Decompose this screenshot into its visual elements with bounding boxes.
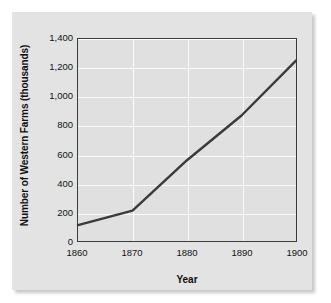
x-axis-title: Year (77, 274, 297, 285)
line-chart: Number of Western Farms (thousands) 0200… (0, 0, 331, 303)
x-tick-label: 1860 (52, 248, 102, 258)
y-tick-label: 400 (25, 179, 73, 189)
plot-area (77, 38, 297, 242)
series-line (78, 39, 296, 241)
x-tick-label: 1870 (107, 248, 157, 258)
series-polyline (78, 61, 296, 225)
x-tick-label: 1900 (272, 248, 322, 258)
y-tick-label: 1,000 (25, 91, 73, 101)
y-tick-label: 800 (25, 120, 73, 130)
y-tick-label: 1,200 (25, 62, 73, 72)
x-tick-label: 1880 (162, 248, 212, 258)
y-tick-label: 1,400 (25, 33, 73, 43)
y-tick-label: 0 (25, 237, 73, 247)
y-tick-label: 200 (25, 208, 73, 218)
x-tick-label: 1890 (217, 248, 267, 258)
y-tick-label: 600 (25, 150, 73, 160)
